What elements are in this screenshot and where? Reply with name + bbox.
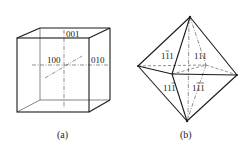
svg-text:111: 111 [192, 83, 205, 93]
cube-edge [89, 100, 110, 112]
label-001: 001 [66, 29, 80, 39]
octa-edge [138, 66, 172, 74]
octa-axis-vertical [188, 20, 189, 118]
svg-text:111: 111 [163, 83, 176, 93]
vertex-bottom [186, 120, 188, 122]
vertex-left [137, 65, 139, 67]
label-upper-right: 111 [194, 51, 207, 61]
caption-b: (b) [180, 129, 192, 141]
svg-text:111: 111 [194, 51, 207, 61]
label-010: 010 [91, 55, 105, 65]
label-upper-left: 111 [161, 51, 174, 61]
octa-hidden-edge [138, 65, 206, 66]
label-lower-right: 111 [192, 83, 205, 93]
vertex-top [189, 16, 191, 18]
crystal-diagram: 001 100 010 (a) 111 111 [0, 0, 251, 153]
cube-edge [89, 28, 110, 38]
cube-hidden-edge [17, 100, 40, 112]
octa-edge [172, 74, 187, 121]
octa-edge [172, 74, 237, 75]
vertex-right [236, 74, 238, 76]
cube-figure: 001 100 010 (a) [17, 28, 110, 141]
cube-edge [17, 28, 40, 38]
label-100: 100 [47, 55, 61, 65]
cube-front-face [17, 38, 89, 112]
octa-edge [190, 17, 237, 75]
octa-axis-horizontal [172, 65, 206, 74]
octahedron-figure: 111 111 111 111 (b) [137, 16, 238, 141]
svg-text:111: 111 [161, 51, 174, 61]
caption-a: (a) [57, 129, 68, 141]
label-lower-left: 111 [163, 83, 176, 93]
